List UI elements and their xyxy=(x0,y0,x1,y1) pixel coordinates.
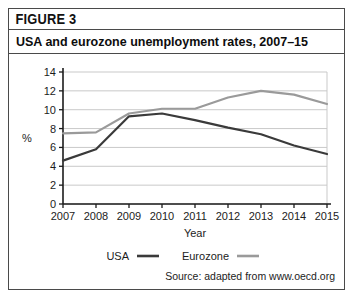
chart-body: 02468101214 2007200820092010201120122013… xyxy=(9,54,344,288)
x-axis: 200720082009201020112012201320142015 xyxy=(51,204,339,222)
legend-label-eurozone: Eurozone xyxy=(182,250,229,262)
series-line-eurozone xyxy=(63,91,327,133)
y-axis: 02468101214 xyxy=(44,66,63,210)
y-axis-tick-label: 14 xyxy=(44,66,56,78)
y-axis-tick-label: 4 xyxy=(50,160,56,172)
y-axis-label: % xyxy=(22,132,32,144)
y-axis-tick-label: 10 xyxy=(44,104,56,116)
x-axis-tick-label: 2014 xyxy=(282,210,306,222)
y-axis-tick-label: 12 xyxy=(44,85,56,97)
x-axis-tick-label: 2007 xyxy=(51,210,75,222)
source-note: Source: adapted from www.oecd.org xyxy=(165,270,335,282)
figure-card: FIGURE 3 USA and eurozone unemployment r… xyxy=(8,8,345,290)
y-axis-tick-labels: 02468101214 xyxy=(44,66,56,210)
chart-legend: USAEurozone xyxy=(106,250,259,262)
y-axis-tick-label: 2 xyxy=(50,179,56,191)
legend-label-usa: USA xyxy=(106,250,129,262)
figure-label: FIGURE 3 xyxy=(9,11,76,27)
x-axis-label: Year xyxy=(184,227,207,239)
series-line-usa xyxy=(63,113,327,160)
figure-title: USA and eurozone unemployment rates, 200… xyxy=(9,35,308,49)
x-axis-tick-label: 2009 xyxy=(117,210,141,222)
gridlines xyxy=(63,72,327,204)
line-chart: 02468101214 2007200820092010201120122013… xyxy=(9,54,344,288)
figure-header: FIGURE 3 xyxy=(9,9,344,30)
y-axis-tick-label: 8 xyxy=(50,123,56,135)
x-axis-tick-label: 2012 xyxy=(216,210,240,222)
x-axis-tick-labels: 200720082009201020112012201320142015 xyxy=(51,210,339,222)
data-series-group xyxy=(63,91,327,161)
x-axis-tick-label: 2013 xyxy=(249,210,273,222)
x-axis-tick-label: 2011 xyxy=(183,210,207,222)
x-axis-tick-label: 2010 xyxy=(150,210,174,222)
y-axis-tick-label: 6 xyxy=(50,141,56,153)
x-axis-tick-label: 2015 xyxy=(315,210,339,222)
x-axis-tick-label: 2008 xyxy=(84,210,108,222)
figure-title-row: USA and eurozone unemployment rates, 200… xyxy=(9,30,344,54)
y-axis-tick-label: 0 xyxy=(50,198,56,210)
